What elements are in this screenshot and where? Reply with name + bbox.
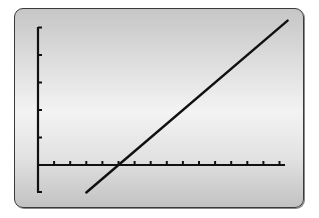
plotted-line (86, 21, 287, 193)
tick-marks (38, 28, 280, 166)
line-graph (0, 0, 319, 218)
data-line (86, 21, 287, 193)
axes (37, 27, 285, 192)
